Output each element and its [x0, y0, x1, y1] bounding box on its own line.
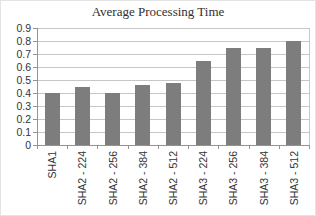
y-axis-line	[37, 28, 38, 146]
x-tick-label: SHA2 - 224	[76, 151, 88, 205]
y-tick-label: 0.6	[5, 61, 31, 73]
gridline	[37, 28, 309, 29]
x-tick-label: SHA2 - 256	[107, 151, 119, 205]
y-tick-label: 0.8	[5, 35, 31, 47]
bar	[166, 83, 181, 145]
x-axis-tick	[67, 145, 68, 149]
x-axis-tick	[128, 145, 129, 149]
bar	[226, 48, 241, 146]
x-tick-label: SHA3 - 256	[227, 151, 239, 205]
x-axis-tick	[309, 145, 310, 149]
y-tick-label: 0.4	[5, 87, 31, 99]
bar	[45, 93, 60, 145]
bar-chart-figure: Average Processing Time 00.10.20.30.40.5…	[0, 0, 316, 216]
x-axis-tick	[37, 145, 38, 149]
bar	[75, 87, 90, 146]
y-tick-label: 0.9	[5, 22, 31, 34]
x-axis-tick	[249, 145, 250, 149]
chart-title: Average Processing Time	[1, 4, 315, 20]
bar	[256, 48, 271, 146]
x-axis-tick	[158, 145, 159, 149]
bar	[105, 93, 120, 145]
y-tick-label: 0.3	[5, 100, 31, 112]
x-tick-label: SHA2 - 384	[137, 151, 149, 205]
x-axis-tick	[188, 145, 189, 149]
x-axis-tick	[218, 145, 219, 149]
x-tick-label: SHA3 - 224	[197, 151, 209, 205]
x-tick-label: SHA1	[46, 151, 58, 178]
x-axis-tick	[279, 145, 280, 149]
bar	[286, 41, 301, 145]
x-tick-label: SHA3 - 384	[258, 151, 270, 205]
x-axis-tick	[97, 145, 98, 149]
y-tick-label: 0.5	[5, 74, 31, 86]
gridline	[37, 41, 309, 42]
x-tick-label: SHA3 - 512	[288, 151, 300, 205]
y-tick-label: 0.2	[5, 113, 31, 125]
y-tick-label: 0	[5, 139, 31, 151]
x-axis-line	[37, 145, 309, 146]
bar	[196, 61, 211, 146]
y-tick-label: 0.7	[5, 48, 31, 60]
y-tick-label: 0.1	[5, 126, 31, 138]
bar	[135, 85, 150, 145]
x-tick-label: SHA2 - 512	[167, 151, 179, 205]
plot-right-border	[309, 28, 310, 145]
